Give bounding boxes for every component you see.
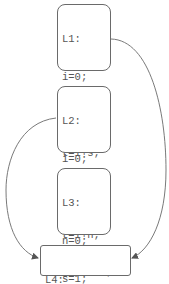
basic-block-L2: L2: i=0; n=1; t=i+n; goto L4; bbox=[57, 86, 111, 153]
edge-L1-to-L4 bbox=[111, 39, 166, 258]
basic-block-L1: L1: i=0; s=1; t=i+s; goto L4; bbox=[57, 4, 111, 71]
control-flow-diagram: L1: i=0; s=1; t=i+s; goto L4; L2: i=0; n… bbox=[0, 0, 169, 284]
basic-block-L4: L4: return t; bbox=[40, 245, 131, 276]
basic-block-L3: L3: n=0; s=1; t=n+s; goto L4; bbox=[57, 168, 111, 235]
code-line: L2: bbox=[62, 115, 110, 128]
code-line: L4: bbox=[45, 274, 130, 284]
code-line: L1: bbox=[62, 33, 110, 46]
code-line: i=0; bbox=[62, 153, 110, 166]
edge-L2-to-L4 bbox=[6, 118, 56, 258]
code-line: L3: bbox=[62, 197, 110, 210]
code-line: i=0; bbox=[62, 71, 110, 84]
